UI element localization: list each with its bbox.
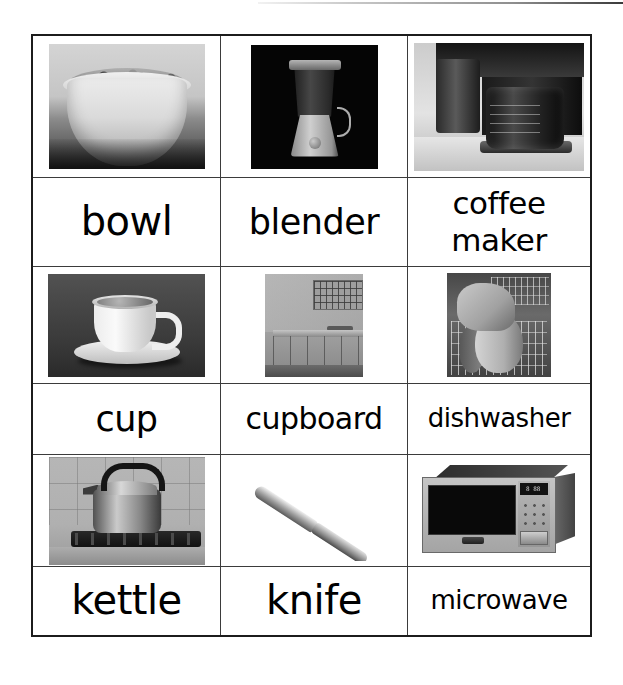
card-image-cell-bowl (33, 36, 221, 178)
card-label-cell-coffee-maker: coffeemaker (408, 178, 590, 267)
kettle-handle (101, 463, 165, 491)
coffee-maker-photo (414, 43, 584, 171)
card-label-cell-microwave: microwave (408, 567, 590, 635)
card-label-knife: knife (262, 580, 366, 622)
card-label-cell-cup: cup (33, 384, 221, 455)
card-image-cell-coffee-maker (408, 36, 590, 178)
card-label-cell-kettle: kettle (33, 567, 221, 635)
card-label-cell-dishwasher: dishwasher (408, 384, 590, 455)
microwave-keypad (521, 501, 547, 527)
microwave-latch (520, 531, 548, 545)
card-image-cell-kettle (33, 455, 221, 567)
card-label-bowl: bowl (77, 201, 177, 243)
knife-blade (252, 484, 318, 533)
blender-base (291, 115, 339, 157)
wall-cupboards (313, 280, 363, 310)
cupboard-photo (265, 274, 363, 377)
card-label-dishwasher: dishwasher (424, 405, 575, 432)
kettle-body (93, 489, 161, 533)
card-image-cell-microwave: 8 88 (408, 455, 590, 567)
kitchen-floor (265, 365, 363, 377)
card-label-kettle: kettle (67, 580, 185, 622)
blender-lid (289, 60, 341, 70)
card-label-coffee-maker-line1: coffee (453, 185, 546, 221)
dishwasher-photo (447, 273, 551, 377)
coffee-water-tank (436, 59, 480, 133)
hand (457, 283, 515, 331)
microwave-side-panel (553, 473, 575, 545)
cup-contents (97, 297, 153, 307)
flash-card-grid: bowl blender coffeemaker (31, 34, 592, 637)
card-label-microwave: microwave (427, 587, 572, 614)
blender-jar (292, 67, 338, 117)
card-label-cell-knife: knife (221, 567, 408, 635)
card-label-coffee-maker: coffeemaker (447, 185, 550, 258)
card-image-cell-knife (221, 455, 408, 567)
cup-photo (48, 274, 205, 377)
base-cupboards (273, 336, 363, 366)
card-label-coffee-maker-line2: maker (451, 222, 546, 258)
bowl-photo (49, 44, 205, 169)
microwave-door-window (428, 485, 516, 535)
hob-grate (75, 533, 197, 545)
card-image-cell-blender (221, 36, 408, 178)
card-label-cell-cupboard: cupboard (221, 384, 408, 455)
cup-handle (152, 312, 182, 350)
microwave-door-handle (462, 537, 484, 544)
coffee-carafe-markings (490, 105, 540, 139)
card-label-cell-bowl: bowl (33, 178, 221, 267)
scan-edge-line (258, 2, 623, 4)
card-label-cup: cup (91, 401, 161, 437)
blender-knob (309, 137, 321, 149)
knife-handle (311, 521, 370, 560)
card-image-cell-dishwasher (408, 267, 590, 384)
card-label-cupboard: cupboard (241, 403, 386, 434)
kettle-counter (49, 547, 205, 565)
microwave-photo: 8 88 (416, 457, 582, 564)
card-label-cell-blender: blender (221, 178, 408, 267)
bowl-shadow (49, 139, 205, 169)
card-image-cell-cupboard (221, 267, 408, 384)
knife-photo (234, 461, 394, 561)
microwave-display-text: 8 88 (526, 485, 540, 492)
card-label-blender: blender (245, 204, 383, 240)
card-image-cell-cup (33, 267, 221, 384)
kettle-photo (49, 457, 205, 565)
blender-photo (251, 45, 378, 169)
blender-handle (337, 107, 351, 137)
